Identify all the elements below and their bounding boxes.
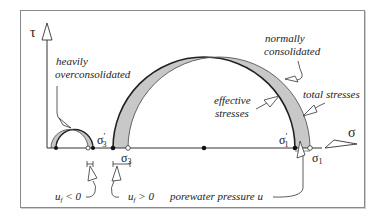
sigma3-effective-label: σ′3 <box>97 131 106 149</box>
small-circle-shaded-band <box>51 130 93 149</box>
small-effective-left-point <box>54 146 58 150</box>
small-effective-right-point <box>91 146 95 150</box>
total-stresses-label: total stresses <box>303 88 360 100</box>
overconsolidated-label: overconsolidated <box>55 68 131 80</box>
uf-positive-pointer <box>111 181 119 197</box>
mohr-diagram: τ σ heavily overconsolidated normally co… <box>0 0 385 223</box>
circle-center-point <box>202 146 207 151</box>
sigma1-effective-point <box>293 146 298 151</box>
porewater-pressure-label: porewater pressure u <box>169 190 263 202</box>
sigma3-effective-point <box>111 146 116 151</box>
uf-negative-pointer <box>86 181 96 197</box>
sigma1-effective-label: σ′1 <box>279 131 288 149</box>
effective-stresses-pointer <box>256 103 267 109</box>
porewater-pointer <box>273 155 303 197</box>
uf-positive-arrow-icon <box>112 166 121 181</box>
tau-axis-label: τ <box>30 25 36 40</box>
small-total-right-point <box>86 146 90 150</box>
sigma1-total-label: σ1 <box>312 151 322 166</box>
total-stresses-arrow-icon <box>303 105 317 116</box>
normally-consolidated-arrow-icon <box>285 76 298 82</box>
normally-consolidated-pointer <box>297 61 302 80</box>
effective-stresses-label: stresses <box>215 107 249 119</box>
uf-negative-label: uf < 0 <box>55 190 81 204</box>
normally-label: normally <box>265 32 305 44</box>
sigma-axis-label: σ <box>348 125 356 140</box>
sigma-arrow-icon <box>325 140 357 148</box>
overconsolidated-pointer <box>57 86 61 120</box>
sigma3-total-point <box>126 146 131 151</box>
tau-arrow-icon <box>42 23 52 40</box>
heavily-label: heavily <box>56 55 88 67</box>
overconsolidated-arrow-icon <box>59 118 71 128</box>
effective-label: effective <box>214 94 251 106</box>
uf-positive-label: uf > 0 <box>128 190 154 204</box>
uf-negative-arrow-icon <box>88 166 97 181</box>
sigma1-total-point <box>308 146 313 151</box>
consolidated-label: consolidated <box>264 45 321 57</box>
effective-stresses-arrow-icon <box>264 96 279 107</box>
